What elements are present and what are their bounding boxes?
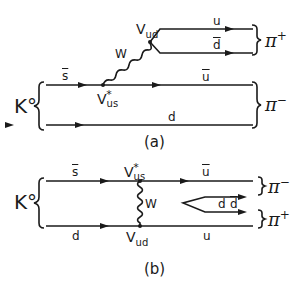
a-caption: (a) <box>144 135 165 150</box>
a-w-label: W <box>115 48 127 60</box>
a-kaon-label: K° <box>14 96 37 116</box>
b-pi-minus-label: π− <box>268 176 290 196</box>
b-w-boson <box>138 181 143 226</box>
a-vud-label: Vud <box>136 22 158 40</box>
a-pi-minus-label: π− <box>265 94 287 114</box>
b-w-label: W <box>145 198 157 210</box>
b-vus-label: Vus* <box>124 162 139 182</box>
b-dbar-label: d <box>230 198 238 210</box>
a-vus-label: Vus* <box>97 89 112 109</box>
b-pi-plus-label: π+ <box>268 209 290 229</box>
a-d-label: d <box>168 111 176 123</box>
a-dbar-label: d <box>213 39 221 51</box>
b-u-label: u <box>203 230 211 242</box>
b-kaon-label: K° <box>14 192 37 212</box>
feynman-diagrams: K° s W Vus* Vud u d u d π+ π− (a) K° s d… <box>0 0 304 291</box>
b-d-out-label: d <box>218 198 226 210</box>
a-u-label: u <box>213 15 221 27</box>
b-caption: (b) <box>144 262 165 277</box>
b-ubar-label: u <box>202 166 210 178</box>
b-sbar-label: s <box>72 166 78 178</box>
a-sbar-label: s <box>62 70 68 82</box>
b-d-label: d <box>72 230 80 242</box>
a-ubar-label: u <box>202 71 210 83</box>
a-w-boson <box>103 43 151 85</box>
b-vud-label: Vud <box>126 230 148 248</box>
a-pi-plus-label: π+ <box>265 30 287 50</box>
